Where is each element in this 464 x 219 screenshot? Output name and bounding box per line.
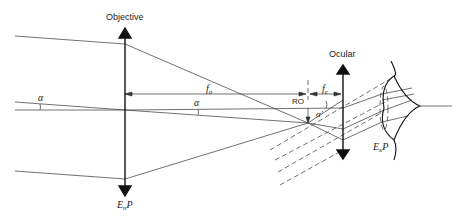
virtual-ray-4 (280, 150, 343, 185)
objective-arrow-down-icon (119, 186, 131, 196)
fo-arrow-right-icon (299, 92, 306, 96)
ray-chief-upper-in (15, 102, 125, 110)
ray-chief-to-focus (125, 110, 308, 123)
alpha-mid-arc (198, 109, 199, 115)
virtual-ray-3 (278, 112, 383, 172)
ray-c (308, 100, 343, 123)
virtual-ray-2 (275, 102, 385, 160)
ray-axis-to-ocular (125, 108, 343, 110)
ocular-arrow-up-icon (337, 65, 349, 74)
ray-out-1 (343, 94, 382, 108)
fe-arrow-left-icon (310, 92, 317, 96)
ocular-arrow-down-icon (337, 150, 349, 159)
ray-top-in (15, 36, 125, 44)
telescope-diagram: Objective Ocular RO α α α' fo fe EnP ExP (0, 0, 464, 219)
ray-top-to-focus (125, 44, 308, 123)
eye-surface-curve (394, 76, 420, 140)
ro-label: RO (292, 97, 304, 106)
objective-label: Objective (106, 12, 144, 22)
exit-pupil-label: ExP (372, 141, 388, 154)
fe-arrow-right-icon (334, 92, 341, 96)
entrance-pupil-label: EnP (116, 199, 133, 212)
ray-out-3 (343, 122, 382, 140)
fo-arrow-left-icon (125, 92, 132, 96)
ray-b (308, 123, 343, 140)
objective-arrow-up-icon (119, 28, 131, 38)
ray-bottom-in (15, 171, 125, 179)
alpha-prime-label: α' (316, 109, 324, 119)
alpha-left-arc (40, 104, 41, 110)
ray-out-5 (382, 100, 412, 111)
ray-a (308, 123, 343, 129)
alpha-prime-arc (326, 101, 327, 108)
alpha-left-label: α (38, 92, 44, 103)
ocular-label: Ocular (329, 49, 356, 59)
alpha-mid-label: α (194, 97, 200, 108)
